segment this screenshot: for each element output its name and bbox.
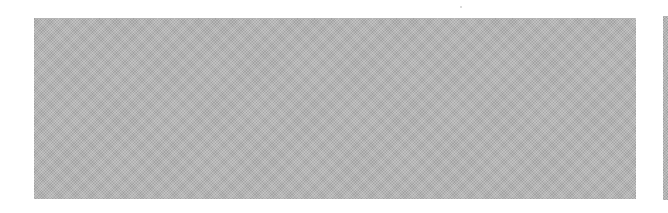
adjacent-image-block-edge [663, 16, 668, 200]
halftone-image-block [34, 18, 636, 199]
scan-artifact [460, 6, 462, 8]
